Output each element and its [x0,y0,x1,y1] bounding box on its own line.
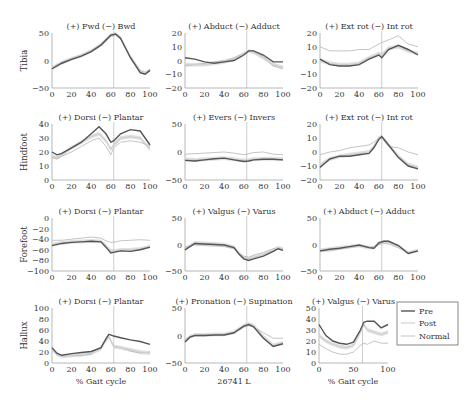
x-tick-label: 80 [125,273,135,282]
y-tick-label: 0 [177,241,182,250]
axes [320,218,418,271]
y-tick-label: −20 [300,84,317,93]
y-tick-label: 0 [44,176,49,185]
x-tick-label: 0 [182,182,187,191]
x-tick-label: 80 [258,365,268,374]
y-tick-label: 20 [307,29,317,38]
x-tick-label: 100 [142,182,157,191]
y-tick-label: 10 [307,43,317,52]
y-tick-label: −20 [32,225,49,234]
y-tick-label: 50 [172,214,182,223]
panel-hindfoot-3: (+) Ext rot (−) Int rot20100−10−20020406… [300,113,426,191]
y-tick-label: −50 [165,176,182,185]
y-tick-label: 50 [306,304,316,313]
x-tick-label: 0 [317,182,322,191]
row-label-hindfoot: Hindfoot [19,132,29,170]
x-tick-label: 60 [239,365,249,374]
x-tick-label: 60 [106,365,116,374]
x-tick-label: 40 [219,182,229,191]
y-tick-label: −50 [32,84,49,93]
x-tick-label: 20 [200,365,210,374]
x-tick-label: 100 [275,90,290,99]
y-tick-label: 10 [307,134,317,143]
panel-title: (+) Valgus (−) Varus [312,297,395,306]
panel-hallux-3: (+) Valgus (−) Varus50403020100050100 [306,297,396,374]
x-tick-label: 100 [410,273,425,282]
panel-forefoot-3: (+) Abduct (−) Adduct500−50020406080100 [300,207,426,282]
row-label-forefoot: Forefoot [19,226,29,263]
y-tick-label: 0 [177,332,182,341]
x-tick-label: 40 [219,273,229,282]
x-tick-label: 50 [348,365,358,374]
x-tick-label: 20 [67,273,77,282]
panel-title: (+) Dorsi (−) Plantar [59,297,144,306]
x-tick-label: 40 [86,182,96,191]
x-tick-label: 0 [49,365,54,374]
y-tick-label: 40 [39,337,49,346]
panel-title: (+) Abduct (−) Adduct [323,207,415,216]
x-tick-label: 80 [125,182,135,191]
x-tick-label: 20 [67,365,77,374]
x-tick-label: 20 [67,90,77,99]
y-tick-label: 0 [177,57,182,66]
panel-hallux-2: (+) Pronation (−) Supination500−50020406… [165,297,292,374]
x-tick-label: 100 [275,273,290,282]
x-tick-label: 100 [142,273,157,282]
y-tick-label: −10 [165,70,182,79]
y-tick-label: 0 [312,241,317,250]
series-normal [52,138,150,159]
x-tick-label: 20 [200,182,210,191]
y-tick-label: 30 [306,326,316,335]
panel-title: (+) Pronation (−) Supination [175,297,292,306]
y-tick-label: −40 [32,235,49,244]
x-tick-label: 20 [200,273,210,282]
y-tick-label: 50 [172,120,182,129]
panel-title: (+) Abduct (−) Adduct [188,22,280,31]
x-tick-label: 0 [317,273,322,282]
y-tick-label: 100 [34,304,49,313]
panel-title: (+) Fwd (−) Bwd [67,22,136,31]
axes [52,218,150,271]
x-tick-label: 40 [354,90,364,99]
x-tick-label: 0 [49,182,54,191]
x-tick-label: 40 [219,365,229,374]
x-tick-label: 40 [354,182,364,191]
legend: Pre Post Normal [397,302,458,345]
y-tick-label: −50 [165,359,182,368]
x-tick-label: 60 [239,273,249,282]
panel-hindfoot-2: (+) Evers (−) Invers500−50020406080100 [165,113,291,191]
x-tick-label: 100 [410,182,425,191]
y-tick-label: 20 [306,337,316,346]
x-tick-label: 40 [86,365,96,374]
x-tick-label: 100 [142,90,157,99]
x-tick-label: 80 [393,90,403,99]
x-tick-label: 40 [86,90,96,99]
panel-tibia-3: (+) Ext rot (−) Int rot20100−10−20020406… [300,22,426,99]
y-tick-label: −50 [165,267,182,276]
x-tick-label: 40 [354,273,364,282]
x-tick-label: 40 [86,273,96,282]
x-tick-label: 80 [258,90,268,99]
legend-label-pre: Pre [419,307,433,316]
x-tick-label: 40 [219,90,229,99]
x-tick-label: 80 [258,182,268,191]
x-tick-label: 100 [380,365,395,374]
y-tick-label: 10 [306,348,316,357]
panel-title: (+) Dorsi (−) Plantar [59,207,144,216]
axes [320,33,418,88]
panel-forefoot-2: (+) Valgus (−) Varus500−50020406080100 [165,207,291,282]
panel-forefoot-1: (+) Dorsi (−) Plantar0−20−40−60−80−10002… [27,207,158,282]
x-tick-label: 60 [374,182,384,191]
axes [185,124,283,180]
gait-kinematics-figure: (+) Fwd (−) Bwd500−50020406080100(+) Abd… [0,0,468,410]
legend-label-post: Post [419,319,437,328]
x-tick-label: 100 [275,182,290,191]
row-label-tibia: Tibia [19,50,29,72]
y-tick-label: 20 [307,120,317,129]
y-tick-label: −20 [300,176,317,185]
x-tick-label: 20 [200,90,210,99]
panel-title: (+) Ext rot (−) Int rot [325,113,413,122]
series-post [320,137,418,168]
y-tick-label: 10 [39,162,49,171]
y-tick-label: 10 [172,43,182,52]
